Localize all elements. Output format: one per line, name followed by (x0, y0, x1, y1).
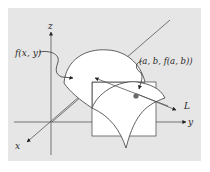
tangent-point (133, 93, 138, 98)
surface-function-label: f(x, y) (14, 48, 42, 58)
z-axis-label: z (47, 21, 53, 31)
x-axis-label: x (15, 141, 20, 151)
surface-diagram: z x y f(x, y) (a, b, f(a, b)) L (0, 0, 210, 172)
tangent-line-label: L (183, 101, 190, 111)
y-axis-label: y (187, 117, 194, 127)
point-label: (a, b, f(a, b)) (139, 56, 193, 66)
diagram-canvas: z x y f(x, y) (a, b, f(a, b)) L (0, 0, 210, 172)
